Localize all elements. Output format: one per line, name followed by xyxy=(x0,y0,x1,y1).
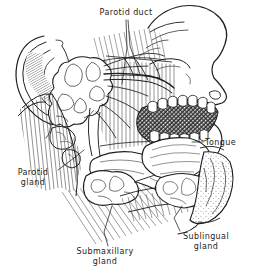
label-tongue-text: Tongue xyxy=(205,138,236,147)
label-submaxillary-line1: Submaxillary xyxy=(55,247,155,257)
label-parotid-gland-line2: gland xyxy=(4,178,62,188)
label-sublingual-line1: Sublingual xyxy=(168,232,244,242)
label-tongue: Tongue xyxy=(205,138,236,148)
label-parotid-duct-text: Parotid duct xyxy=(100,8,153,17)
label-parotid-gland: Parotid gland xyxy=(4,168,62,187)
label-parotid-duct: Parotid duct xyxy=(76,8,176,18)
label-submaxillary-gland: Submaxillary gland xyxy=(55,247,155,266)
label-submaxillary-line2: gland xyxy=(55,257,155,267)
label-sublingual-line2: gland xyxy=(168,242,244,252)
submaxillary-gland xyxy=(83,171,138,206)
label-parotid-gland-line1: Parotid xyxy=(4,168,62,178)
label-sublingual-gland: Sublingual gland xyxy=(168,232,244,251)
